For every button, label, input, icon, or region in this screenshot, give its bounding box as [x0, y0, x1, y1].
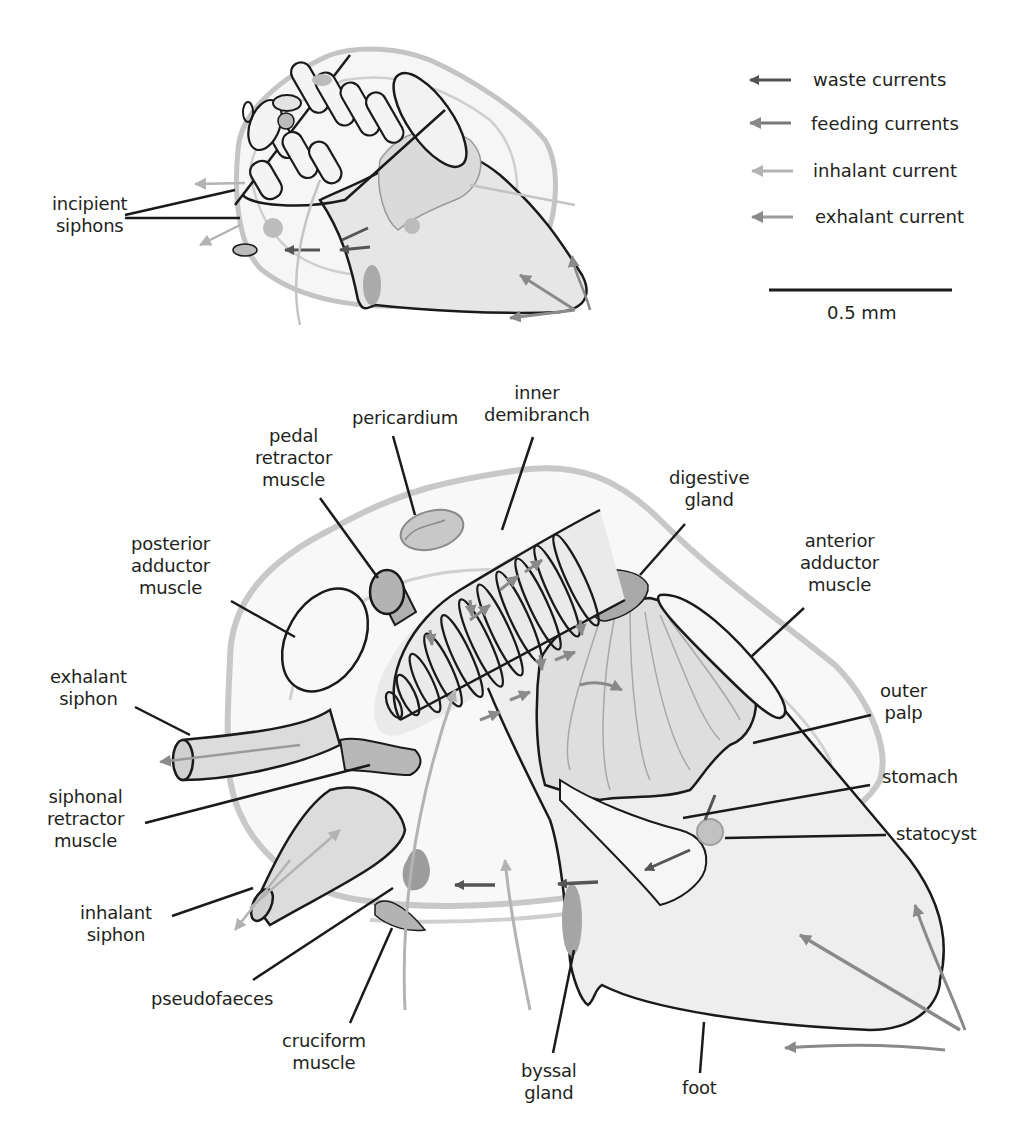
label-byssal-gland: byssal gland — [521, 1060, 577, 1104]
legend-waste-currents: waste currents — [813, 69, 946, 91]
leader-exhalant-siphon — [135, 707, 190, 735]
label-inner-demibranch: inner demibranch — [484, 382, 590, 426]
scale-bar-label: 0.5 mm — [827, 302, 896, 324]
label-statocyst: statocyst — [896, 823, 977, 845]
leader-cruciform — [350, 928, 392, 1023]
leader-foot — [700, 1022, 704, 1073]
legend-feeding-currents: feeding currents — [811, 113, 959, 135]
label-inhalant-siphon: inhalant siphon — [80, 902, 152, 946]
legend-exhalant-current: exhalant current — [815, 206, 964, 228]
label-outer-palp: outer palp — [880, 680, 927, 724]
label-foot: foot — [682, 1077, 717, 1099]
label-exhalant-siphon: exhalant siphon — [50, 666, 127, 710]
label-incipient-siphons: incipient siphons — [52, 193, 127, 237]
leader-inhalant-siphon — [172, 888, 253, 916]
label-siphonal-retractor-muscle: siphonal retractor muscle — [47, 786, 124, 852]
leader-byssal-gland — [553, 950, 574, 1053]
label-cruciform-muscle: cruciform muscle — [282, 1030, 366, 1074]
label-digestive-gland: digestive gland — [669, 467, 749, 511]
statocyst — [697, 819, 723, 845]
label-anterior-adductor-muscle: anterior adductor muscle — [800, 530, 879, 596]
small-juvenile-diagram — [125, 30, 590, 325]
legend — [750, 80, 952, 290]
label-pericardium: pericardium — [352, 407, 458, 429]
label-stomach: stomach — [882, 766, 958, 788]
label-pseudofaeces: pseudofaeces — [151, 988, 273, 1010]
byssal-gland — [562, 884, 582, 956]
legend-inhalant-current: inhalant current — [813, 160, 957, 182]
label-posterior-adductor-muscle: posterior adductor muscle — [131, 533, 210, 599]
label-pedal-retractor-muscle: pedal retractor muscle — [255, 425, 332, 491]
